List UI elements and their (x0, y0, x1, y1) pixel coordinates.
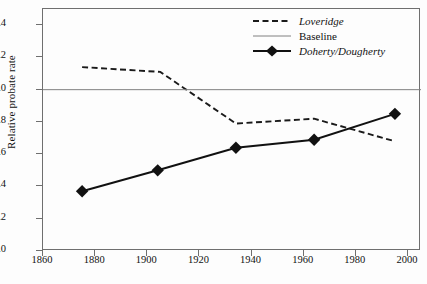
series-line (82, 114, 395, 191)
series-line (82, 67, 395, 141)
legend-label: Doherty/Dougherty (299, 45, 385, 57)
x-tick-label: 2000 (384, 254, 427, 265)
data-point-marker (152, 164, 164, 176)
data-point-marker (308, 133, 320, 145)
y-tick-label: 1.0 (0, 83, 6, 93)
legend-swatch-dashed-icon (252, 15, 292, 27)
y-tick-label: 1.2 (0, 50, 6, 60)
legend-item: Loveridge (252, 13, 385, 28)
legend-item: Doherty/Dougherty (252, 43, 385, 58)
y-tick-label: 0.6 (0, 147, 6, 157)
chart-container: Relative probate rate 0.00.20.40.60.81.0… (0, 0, 427, 284)
chart-legend: LoveridgeBaselineDoherty/Dougherty (252, 13, 385, 58)
data-point-marker (76, 185, 88, 197)
series-doherty-dougherty (76, 108, 401, 198)
series-loveridge (82, 67, 395, 141)
y-tick-label: 0.2 (0, 212, 6, 222)
legend-item: Baseline (252, 28, 385, 43)
y-tick-label: 1.4 (0, 18, 6, 28)
legend-label: Baseline (299, 30, 337, 42)
y-tick-label: 0.8 (0, 115, 6, 125)
y-tick-label: 0.4 (0, 179, 6, 189)
data-point-marker (230, 142, 242, 154)
y-axis-title: Relative probate rate (5, 27, 17, 177)
legend-label: Loveridge (299, 15, 344, 27)
y-tick-label: 0.0 (0, 244, 6, 254)
legend-swatch-solid-thin-icon (252, 30, 292, 42)
legend-swatch-diamond-line-icon (252, 45, 292, 57)
data-point-marker (389, 108, 401, 120)
